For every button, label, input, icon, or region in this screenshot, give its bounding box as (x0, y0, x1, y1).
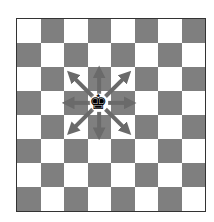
board-square (17, 187, 41, 211)
board-square (158, 115, 182, 139)
board-square (111, 19, 135, 43)
board-square (158, 163, 182, 187)
board-square (88, 187, 112, 211)
board-square (41, 187, 65, 211)
board-square (158, 19, 182, 43)
board-square (88, 139, 112, 163)
board-square (135, 91, 159, 115)
board-square (17, 163, 41, 187)
board-square (158, 187, 182, 211)
board-square (182, 19, 206, 43)
board-square (64, 19, 88, 43)
board-square (41, 67, 65, 91)
board-square (135, 163, 159, 187)
board-square (111, 163, 135, 187)
board-square (158, 91, 182, 115)
board-square (135, 139, 159, 163)
board-square (135, 43, 159, 67)
board-square (88, 163, 112, 187)
board-square (17, 115, 41, 139)
board-square (17, 139, 41, 163)
board-square (158, 139, 182, 163)
board-square (88, 43, 112, 67)
board-square (158, 67, 182, 91)
board-square (88, 19, 112, 43)
board-square (17, 91, 41, 115)
board-square (182, 187, 206, 211)
board-square (64, 91, 88, 115)
board-square (135, 19, 159, 43)
board-square (111, 43, 135, 67)
board-square (41, 43, 65, 67)
board-square (41, 139, 65, 163)
board-square (182, 67, 206, 91)
board-square (88, 67, 112, 91)
board-square (135, 115, 159, 139)
board-square (17, 43, 41, 67)
board-square (64, 43, 88, 67)
board-square (17, 67, 41, 91)
board-square (111, 115, 135, 139)
board-square (41, 19, 65, 43)
board-square (17, 19, 41, 43)
board-square (64, 139, 88, 163)
board-square (111, 67, 135, 91)
board-square (111, 187, 135, 211)
board-square (111, 139, 135, 163)
board-square (41, 91, 65, 115)
board-square (182, 163, 206, 187)
chessboard (16, 18, 206, 212)
black-king-piece: ♚ (89, 92, 107, 112)
board-square (88, 115, 112, 139)
board-square (182, 115, 206, 139)
board-square (41, 115, 65, 139)
board-square (64, 187, 88, 211)
board-square (182, 43, 206, 67)
board-square (64, 115, 88, 139)
board-square (182, 91, 206, 115)
board-square (135, 67, 159, 91)
board-square (135, 187, 159, 211)
board-square (182, 139, 206, 163)
board-square (64, 67, 88, 91)
board-square (111, 91, 135, 115)
board-square (158, 43, 182, 67)
board-square (64, 163, 88, 187)
board-square (41, 163, 65, 187)
